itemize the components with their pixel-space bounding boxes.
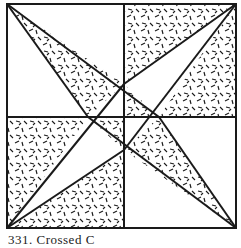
blade-top-left xyxy=(7,4,124,117)
figure-caption: 331. Crossed C xyxy=(8,232,95,248)
blade-bottom-right xyxy=(124,117,236,228)
